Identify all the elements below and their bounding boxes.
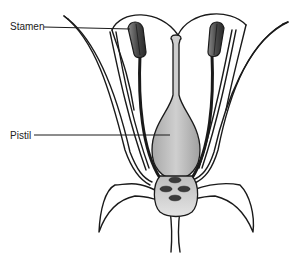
pistil bbox=[152, 35, 200, 180]
left-anther bbox=[128, 22, 146, 58]
right-anther bbox=[208, 22, 224, 57]
left-sepal bbox=[99, 184, 158, 232]
pistil-label: Pistil bbox=[10, 131, 31, 141]
stamen-label: Stamen bbox=[10, 22, 44, 32]
right-sepal bbox=[190, 184, 253, 232]
flower-illustration bbox=[0, 0, 300, 261]
ovary bbox=[154, 176, 197, 217]
stamen-leader-line bbox=[44, 27, 130, 29]
flower-diagram: Stamen Pistil bbox=[0, 0, 300, 261]
leader-lines bbox=[34, 27, 170, 135]
